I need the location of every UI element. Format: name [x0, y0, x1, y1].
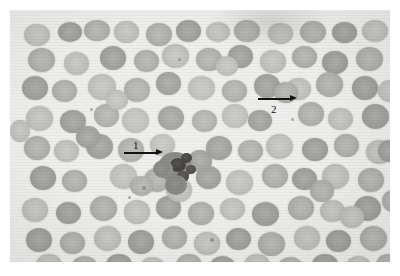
red-blood-cell	[360, 226, 387, 251]
red-blood-cell	[62, 170, 87, 192]
red-blood-cell	[226, 170, 253, 195]
red-blood-cell	[334, 134, 359, 157]
red-blood-cell	[252, 202, 279, 226]
red-blood-cell	[268, 23, 293, 44]
red-blood-cell	[194, 232, 220, 255]
annotation-2-label: 2	[271, 104, 277, 115]
red-blood-cell	[234, 20, 260, 42]
red-blood-cell	[26, 106, 53, 131]
red-blood-cell	[352, 76, 378, 100]
red-blood-cell	[106, 90, 128, 110]
red-blood-cell	[356, 47, 383, 71]
red-blood-cell	[24, 24, 50, 46]
red-blood-cell	[260, 50, 286, 73]
stained-cell-nucleus	[186, 165, 196, 174]
red-blood-cell	[322, 51, 348, 74]
red-blood-cell	[310, 180, 334, 202]
red-blood-cell	[362, 104, 389, 129]
red-blood-cell	[300, 21, 326, 43]
debris-speck	[291, 118, 294, 121]
debris-speck	[178, 58, 181, 61]
red-blood-cell	[326, 230, 351, 252]
red-blood-cell	[216, 56, 238, 76]
red-blood-cell	[100, 46, 126, 70]
red-blood-cell	[226, 228, 251, 250]
red-blood-cell	[28, 48, 55, 72]
debris-speck	[90, 108, 93, 111]
red-blood-cell	[158, 106, 184, 130]
red-blood-cell	[278, 257, 303, 262]
debris-speck	[142, 186, 146, 190]
red-blood-cell	[210, 256, 235, 262]
red-blood-cell	[106, 254, 132, 262]
red-blood-cell	[312, 254, 338, 262]
micrograph-figure: 1 2	[0, 0, 400, 276]
red-blood-cell	[22, 198, 48, 222]
stained-cell-body	[165, 175, 187, 195]
red-blood-cell	[362, 20, 388, 42]
red-blood-cell	[128, 230, 154, 254]
red-blood-cell	[58, 22, 82, 42]
stained-cell-nucleus	[181, 153, 192, 163]
red-blood-cell	[188, 76, 215, 100]
red-blood-cell	[262, 164, 288, 188]
red-blood-cell	[52, 80, 77, 102]
red-blood-cell	[346, 256, 371, 262]
red-blood-cell	[316, 72, 343, 97]
red-blood-cell	[94, 226, 121, 251]
red-blood-cell	[378, 80, 390, 102]
red-blood-cell	[64, 52, 89, 75]
red-blood-cell	[248, 110, 272, 131]
red-blood-cell	[36, 254, 62, 262]
red-blood-cell	[146, 23, 172, 46]
red-blood-cell	[220, 198, 245, 220]
red-blood-cell	[266, 134, 293, 159]
red-blood-cell	[332, 22, 357, 43]
red-blood-cell	[302, 138, 328, 161]
red-blood-cell	[292, 46, 317, 68]
red-blood-cell	[60, 232, 85, 254]
red-blood-cell	[22, 76, 48, 100]
red-blood-cell	[30, 166, 56, 190]
red-blood-cell	[156, 72, 181, 95]
red-blood-cell	[192, 110, 217, 132]
annotation-2-arrow-head	[290, 95, 297, 101]
red-blood-cell	[222, 104, 248, 128]
red-blood-cell	[206, 22, 230, 42]
red-blood-cell	[24, 136, 50, 160]
red-blood-cell	[238, 140, 263, 162]
red-blood-cell	[376, 254, 390, 262]
red-blood-cell	[328, 108, 353, 130]
red-blood-cell	[298, 102, 324, 126]
debris-speck	[128, 196, 131, 199]
red-blood-cell	[140, 257, 165, 262]
red-blood-cell	[122, 108, 149, 133]
red-blood-cell	[56, 202, 81, 224]
red-blood-cell	[90, 196, 117, 221]
blood-smear-image: 1 2	[10, 10, 390, 262]
red-blood-cell	[162, 44, 189, 68]
red-blood-cell	[188, 202, 214, 225]
red-blood-cell	[340, 206, 364, 228]
red-blood-cell	[382, 190, 390, 212]
red-blood-cell	[176, 20, 201, 42]
red-blood-cell	[84, 20, 110, 41]
annotation-1-arrow-shaft	[124, 152, 157, 154]
red-blood-cell	[358, 168, 384, 192]
annotation-1-label: 1	[133, 140, 139, 151]
red-blood-cell	[10, 120, 30, 142]
annotation-1-arrow-head	[156, 149, 163, 155]
red-blood-cell	[26, 228, 52, 252]
red-blood-cell	[118, 138, 144, 162]
red-blood-cell	[54, 140, 79, 162]
red-blood-cell	[124, 200, 150, 224]
red-blood-cell	[288, 196, 314, 220]
red-blood-cell	[294, 226, 320, 250]
red-blood-cell	[114, 21, 139, 43]
red-blood-cell	[162, 226, 187, 249]
red-blood-cell	[134, 50, 159, 72]
red-blood-cell	[176, 254, 202, 262]
red-blood-cell	[222, 80, 247, 102]
debris-speck	[210, 238, 214, 242]
red-blood-cell	[258, 232, 285, 256]
